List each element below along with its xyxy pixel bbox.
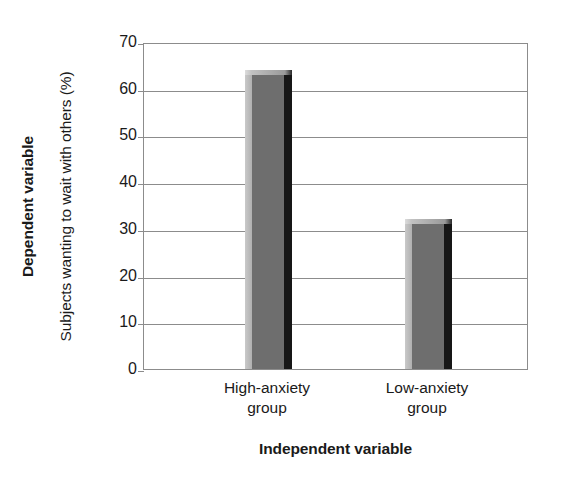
- y-axis-tick-label: 70: [103, 34, 137, 50]
- y-axis-tick-label: 60: [103, 81, 137, 97]
- plot-area: [143, 43, 528, 370]
- gridline: [144, 324, 527, 325]
- y-axis-tick-label: 40: [103, 174, 137, 190]
- x-axis-category-label-line: group: [187, 398, 347, 418]
- y-axis-tick-labels: 706050403020100: [99, 43, 137, 370]
- y-axis-tick: [138, 231, 144, 232]
- x-axis-category-label-line: group: [347, 398, 507, 418]
- y-axis-tick-label: 10: [103, 314, 137, 330]
- x-axis-category-label: High-anxietygroup: [187, 378, 347, 419]
- x-axis-category-labels: High-anxietygroupLow-anxietygroup: [143, 378, 528, 430]
- gridline: [144, 231, 527, 232]
- y-axis-tick-label: 50: [103, 127, 137, 143]
- bar-top-face: [245, 70, 292, 75]
- y-axis-tick: [138, 91, 144, 92]
- bar-left-face: [245, 75, 252, 369]
- gridline: [144, 278, 527, 279]
- y-axis-tick-label: 20: [103, 268, 137, 284]
- bar-front-face: [252, 75, 284, 369]
- y-axis-tick: [138, 324, 144, 325]
- y-axis-tick-label: 30: [103, 221, 137, 237]
- y-axis-tick: [138, 278, 144, 279]
- bar-right-face: [284, 75, 292, 369]
- bar-left-face: [405, 224, 412, 369]
- bar-chart-figure: Dependent variable Subjects wanting to w…: [0, 0, 570, 477]
- bar-top-face: [405, 219, 452, 224]
- bar: [245, 75, 292, 369]
- y-axis-tick: [138, 137, 144, 138]
- dependent-variable-axis-title: Dependent variable: [14, 43, 42, 370]
- y-axis-tick: [138, 371, 144, 372]
- x-axis-category-label-line: High-anxiety: [187, 378, 347, 398]
- bar-front-face: [412, 224, 444, 369]
- x-axis-category-label-line: Low-anxiety: [347, 378, 507, 398]
- x-axis-category-label: Low-anxietygroup: [347, 378, 507, 419]
- y-axis-tick: [138, 184, 144, 185]
- independent-variable-axis-title: Independent variable: [143, 440, 528, 458]
- gridline: [144, 184, 527, 185]
- bar: [405, 224, 452, 369]
- y-axis-tick: [138, 44, 144, 45]
- gridline: [144, 137, 527, 138]
- y-axis-title: Subjects wanting to wait with others (%): [52, 43, 80, 370]
- y-axis-tick-label: 0: [103, 361, 137, 377]
- gridline: [144, 91, 527, 92]
- bar-right-face: [444, 224, 452, 369]
